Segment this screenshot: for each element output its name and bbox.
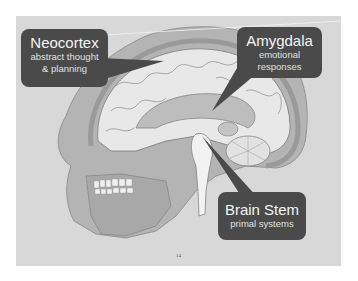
callout-subtitle: responses [237,61,322,73]
callout-subtitle: emotional [237,49,322,61]
slide: Neocortex abstract thought & planning Am… [16,16,341,266]
callout-amygdala: Amygdala emotional responses [237,27,322,78]
callout-title: Amygdala [237,32,322,49]
callout-subtitle: primal systems [218,218,306,230]
callout-subtitle: & planning [21,63,108,75]
callout-title: Neocortex [21,34,108,51]
amygdala-shape [218,122,238,136]
callout-subtitle: abstract thought [21,51,108,63]
callout-neocortex: Neocortex abstract thought & planning [21,29,108,87]
callout-title: Brain Stem [218,201,306,218]
page-number: 14 [16,253,341,258]
callout-brain-stem: Brain Stem primal systems [218,192,306,240]
